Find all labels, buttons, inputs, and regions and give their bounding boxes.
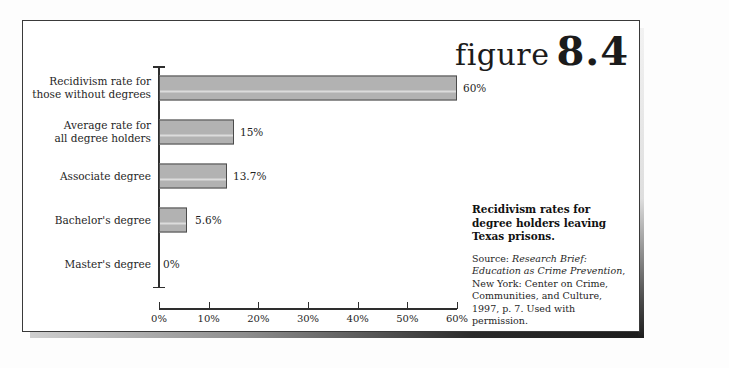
category-label-line1: Bachelor's degree <box>55 214 151 226</box>
x-axis-tick-label: 50% <box>396 313 418 324</box>
caption-source-prefix: Source: <box>472 253 512 264</box>
x-axis-tick-label: 30% <box>297 313 319 324</box>
category-label: Master's degree <box>23 258 151 271</box>
category-label-line1: Associate degree <box>60 170 151 182</box>
bar-bachelors-degree <box>159 208 187 233</box>
x-axis-tick-label: 40% <box>347 313 369 324</box>
x-axis-tick-label: 60% <box>446 313 468 324</box>
figure-frame: figure 8.4 Recidivism rate for those wit… <box>22 20 640 332</box>
table-row: Recidivism rate for those without degree… <box>23 66 641 110</box>
category-label: Associate degree <box>23 170 151 183</box>
x-axis-tick <box>407 302 408 309</box>
category-label-line1: Average rate for <box>64 119 151 131</box>
bar-value-label: 5.6% <box>195 214 222 226</box>
category-label: Recidivism rate for those without degree… <box>23 75 151 101</box>
category-label-line2: all degree holders <box>54 132 151 144</box>
bar-average-degree-holders <box>159 120 234 145</box>
bar-value-label: 0% <box>163 258 180 270</box>
caption-block: Recidivism rates for degree holders leav… <box>472 203 632 328</box>
bar-value-label: 15% <box>240 126 263 138</box>
x-axis-tick-label: 20% <box>247 313 269 324</box>
bar-value-label: 13.7% <box>233 170 266 182</box>
y-axis-bottom-cap <box>153 287 165 289</box>
bar-value-label: 60% <box>463 82 486 94</box>
scanned-page: figure 8.4 Recidivism rate for those wit… <box>0 0 729 368</box>
caption-title: Recidivism rates for degree holders leav… <box>472 203 632 244</box>
x-axis-tick-label: 10% <box>198 313 220 324</box>
category-label-line2: those without degrees <box>32 88 151 100</box>
category-label: Average rate for all degree holders <box>23 119 151 145</box>
x-axis-tick <box>358 302 359 309</box>
x-axis-tick <box>159 302 160 309</box>
table-row: Associate degree 13.7% <box>23 154 641 198</box>
x-axis-tick-label: 0% <box>151 313 167 324</box>
table-row: Average rate for all degree holders 15% <box>23 110 641 154</box>
x-axis-tick <box>308 302 309 309</box>
x-axis-tick <box>457 302 458 309</box>
category-label-line1: Master's degree <box>64 258 151 270</box>
category-label-line1: Recidivism rate for <box>49 75 151 87</box>
category-label: Bachelor's degree <box>23 214 151 227</box>
bar-recidivism-without-degrees <box>159 76 457 101</box>
x-axis-tick <box>209 302 210 309</box>
caption-source: Source: Research Brief: Education as Cri… <box>472 253 632 328</box>
x-axis-tick <box>258 302 259 309</box>
bar-associate-degree <box>159 164 227 189</box>
